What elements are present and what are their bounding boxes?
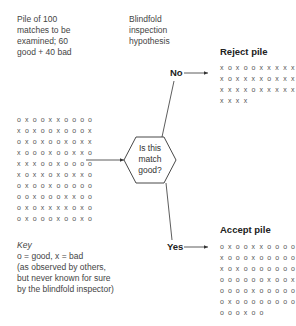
good-match: o bbox=[252, 296, 260, 307]
bad-match: x bbox=[244, 73, 252, 84]
bad-match: x bbox=[56, 202, 64, 213]
good-match: o bbox=[283, 274, 291, 285]
good-match: o bbox=[33, 213, 41, 224]
good-match: o bbox=[72, 125, 80, 136]
no-branch-line bbox=[162, 81, 174, 137]
intro-caption-line: good + 40 bad bbox=[17, 47, 72, 58]
match-row: oxooxxoooo bbox=[17, 114, 96, 125]
bad-match: x bbox=[267, 84, 275, 95]
match-row: xoxooxooox bbox=[17, 125, 96, 136]
match-row: oxoxxxxoxo bbox=[17, 202, 96, 213]
bad-match: x bbox=[259, 241, 267, 252]
good-match: o bbox=[244, 241, 252, 252]
good-match: o bbox=[252, 263, 260, 274]
no-label: No bbox=[170, 67, 183, 78]
good-match: o bbox=[25, 191, 33, 202]
bad-match: x bbox=[228, 84, 236, 95]
bad-match: x bbox=[49, 202, 57, 213]
good-match: o bbox=[259, 307, 267, 318]
match-row: xoooxooxxo bbox=[17, 147, 96, 158]
bad-match: x bbox=[244, 307, 252, 318]
bad-match: x bbox=[64, 202, 72, 213]
good-match: o bbox=[41, 191, 49, 202]
good-match: o bbox=[17, 213, 25, 224]
good-match: o bbox=[244, 296, 252, 307]
good-match: o bbox=[291, 296, 296, 307]
good-match: o bbox=[267, 73, 275, 84]
bad-match: x bbox=[244, 84, 252, 95]
bad-match: x bbox=[236, 62, 244, 73]
good-match: o bbox=[56, 136, 64, 147]
good-match: o bbox=[49, 158, 57, 169]
yes-label: Yes bbox=[167, 241, 183, 252]
key-line: by the blindfold inspector) bbox=[17, 284, 114, 295]
bad-match: x bbox=[244, 95, 252, 106]
good-match: o bbox=[220, 296, 228, 307]
match-row: oxoxooxoxx bbox=[17, 136, 96, 147]
good-match: o bbox=[41, 213, 49, 224]
good-match: o bbox=[259, 296, 267, 307]
bad-match: x bbox=[275, 73, 283, 84]
good-match: o bbox=[275, 263, 283, 274]
bad-match: x bbox=[220, 263, 228, 274]
good-match: o bbox=[64, 158, 72, 169]
good-match: o bbox=[33, 202, 41, 213]
good-match: o bbox=[88, 147, 96, 158]
bad-match: x bbox=[25, 202, 33, 213]
good-match: o bbox=[88, 213, 96, 224]
match-row: oxooxooooo bbox=[17, 180, 96, 191]
good-match: o bbox=[275, 296, 283, 307]
bad-match: x bbox=[80, 169, 88, 180]
good-match: o bbox=[267, 296, 275, 307]
good-match: o bbox=[283, 296, 291, 307]
bad-match: x bbox=[88, 125, 96, 136]
good-match: o bbox=[49, 169, 57, 180]
bad-match: x bbox=[33, 191, 41, 202]
good-match: o bbox=[275, 274, 283, 285]
good-match: o bbox=[236, 241, 244, 252]
good-match: o bbox=[49, 191, 57, 202]
bad-match: x bbox=[220, 62, 228, 73]
bad-match: x bbox=[220, 252, 228, 263]
good-match: o bbox=[244, 285, 252, 296]
match-row: ooooooxoox bbox=[220, 274, 296, 285]
good-match: o bbox=[244, 263, 252, 274]
intro-caption: Pile of 100 matches to be examined; 60 g… bbox=[17, 14, 72, 58]
bad-match: x bbox=[41, 136, 49, 147]
bad-match: x bbox=[88, 136, 96, 147]
bad-match: x bbox=[252, 241, 260, 252]
good-match: o bbox=[72, 136, 80, 147]
bad-match: x bbox=[25, 213, 33, 224]
good-match: o bbox=[17, 114, 25, 125]
match-row: oooxoo bbox=[220, 307, 296, 318]
bad-match: x bbox=[236, 263, 244, 274]
match-row: oxooxxoooo bbox=[220, 241, 296, 252]
bad-match: x bbox=[236, 95, 244, 106]
good-match: o bbox=[220, 241, 228, 252]
good-match: o bbox=[25, 125, 33, 136]
good-match: o bbox=[236, 307, 244, 318]
key-line: (as observed by others, bbox=[17, 262, 114, 273]
decision-question: Is this match good? bbox=[125, 143, 175, 176]
bad-match: x bbox=[49, 114, 57, 125]
bad-match: x bbox=[41, 169, 49, 180]
good-match: o bbox=[80, 114, 88, 125]
good-match: o bbox=[33, 136, 41, 147]
bad-match: x bbox=[228, 241, 236, 252]
good-match: o bbox=[283, 241, 291, 252]
bad-match: x bbox=[25, 114, 33, 125]
good-match: o bbox=[25, 169, 33, 180]
key-line: o = good, x = bad bbox=[17, 251, 114, 262]
good-match: o bbox=[64, 125, 72, 136]
good-match: o bbox=[259, 263, 267, 274]
good-match: o bbox=[33, 114, 41, 125]
accept-pile-grid: oxooxxooooxoooxoooooxoxoooooooooooooxoox… bbox=[220, 241, 296, 318]
good-match: o bbox=[41, 180, 49, 191]
bad-match: x bbox=[17, 169, 25, 180]
good-match: o bbox=[56, 180, 64, 191]
good-match: o bbox=[236, 296, 244, 307]
decision-question-line: good? bbox=[125, 165, 175, 176]
good-match: o bbox=[283, 252, 291, 263]
good-match: o bbox=[72, 158, 80, 169]
good-match: o bbox=[88, 191, 96, 202]
